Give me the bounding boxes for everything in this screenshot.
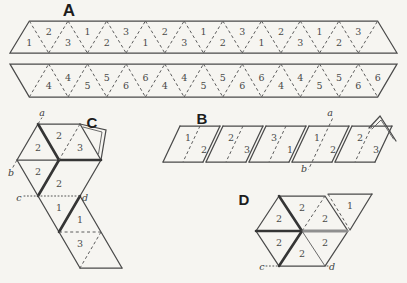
strip2-triangle-number: 5 (104, 72, 110, 83)
panel-c-triangle-number: 2 (35, 166, 41, 177)
panel-b-triangle-number: 2 (228, 132, 234, 143)
panel-c-fold-line (80, 232, 101, 268)
strip2-triangle-number: 6 (142, 72, 148, 83)
panel-d-triangle-number: 2 (276, 213, 282, 224)
strip1-triangle-number: 1 (26, 37, 32, 48)
fold-point-label-a-panel-b: a (327, 108, 333, 118)
strip1-triangle-number: 2 (162, 26, 168, 37)
strip2-triangle-number: 4 (162, 80, 168, 91)
panel-d-title: D (239, 191, 250, 208)
strip2-triangle-number: 4 (297, 72, 303, 83)
fold-point-label-c-panel-c: c (16, 193, 21, 203)
strip2-triangle-number: 4 (278, 80, 284, 91)
flexagon-figure-page: 1231231231231231234455664455664455661223… (0, 0, 407, 283)
fold-point-label-d-panel-d: d (329, 262, 335, 272)
strip2-triangle-number: 5 (336, 72, 342, 83)
panel-c-triangle-number: 1 (77, 214, 83, 225)
strip2-triangle-number: 4 (46, 80, 52, 91)
strip1-triangle-number: 3 (297, 37, 303, 48)
strip2-triangle-number: 5 (200, 80, 206, 91)
strip1-triangle-number: 1 (317, 26, 323, 37)
strip2-triangle-number: 6 (355, 80, 361, 91)
panel-a-title: A (63, 1, 75, 21)
panel-c-flap-inner-edge (83, 127, 102, 154)
panel-b-triangle-number: 1 (185, 132, 191, 143)
panel-b-segment-left-edge (249, 126, 266, 162)
strip1-triangle-number: 2 (46, 26, 52, 37)
panel-b-triangle-number: 3 (373, 144, 379, 155)
strip1-triangle-number: 3 (239, 26, 245, 37)
strip2-triangle-number: 4 (65, 72, 71, 83)
panel-c-label-a-pointer (38, 118, 42, 125)
strip2-triangle-number: 5 (220, 72, 226, 83)
strip1-triangle-number: 3 (181, 37, 187, 48)
strip2-triangle-number: 5 (84, 80, 90, 91)
strip1-triangle-number: 1 (200, 26, 206, 37)
strip1-triangle-number: 2 (220, 37, 226, 48)
panel-c-triangle-number: 2 (35, 142, 41, 153)
panel-d-flap-number: 1 (347, 200, 353, 211)
panel-c-triangle-number: 3 (77, 142, 83, 153)
panel-d-flap-right-edge (350, 194, 372, 230)
panel-c-right-notch-edge (80, 160, 101, 196)
panel-b-triangle-number: 2 (201, 144, 207, 155)
panel-d-triangle-number: 2 (299, 248, 305, 259)
strip2-triangle-number: 4 (181, 72, 187, 83)
strip1-triangle-number: 3 (355, 26, 361, 37)
fold-point-label-b-panel-b: b (301, 164, 307, 174)
panel-d-triangle-number: 2 (276, 237, 282, 248)
panel-b-segment-left-edge (206, 126, 223, 162)
panel-c-title: C (87, 114, 98, 131)
strip1-triangle-number: 2 (278, 26, 284, 37)
panel-b-triangle-number: 1 (314, 132, 320, 143)
panel-c-triangle-number: 2 (56, 178, 62, 189)
strip2-triangle-number: 6 (123, 80, 129, 91)
strip1-triangle-number: 2 (336, 37, 342, 48)
panel-c-triangle-number: 3 (77, 238, 83, 249)
panel-d-triangle-number: 2 (322, 213, 328, 224)
strip1-triangle-number: 2 (104, 37, 110, 48)
strip1-triangle-number: 3 (123, 26, 129, 37)
panel-b-segment-left-edge (163, 126, 180, 162)
panel-c-triangle-number: 2 (56, 130, 62, 141)
panel-b-triangle-number: 3 (244, 144, 250, 155)
flexagon-net-diagram: 1231231231231231234455664455664455661223… (0, 0, 407, 283)
fold-point-label-d-panel-c: d (82, 193, 88, 203)
fold-point-label-a-panel-c: a (39, 108, 45, 118)
strip2-triangle-number: 6 (239, 80, 245, 91)
strip2-triangle-number: 6 (375, 72, 381, 83)
strip1-triangle-number: 1 (259, 37, 265, 48)
panel-d-triangle-number: 2 (299, 202, 305, 213)
strip2-triangle-number: 5 (317, 80, 323, 91)
fold-point-label-b-panel-c: b (8, 168, 14, 178)
panel-b-triangle-number: 2 (357, 132, 363, 143)
panel-d-triangle-number: 2 (322, 237, 328, 248)
panel-c-triangle-number: 1 (56, 202, 62, 213)
strip1-triangle-number: 1 (84, 26, 90, 37)
panel-b-triangle-number: 1 (287, 144, 293, 155)
strip1-triangle-number: 3 (65, 37, 71, 48)
panel-b-triangle-number: 3 (271, 132, 277, 143)
panel-b-segment-left-edge (292, 126, 309, 162)
fold-point-label-c-panel-d: c (259, 262, 264, 272)
strip1-triangle-number: 1 (142, 37, 148, 48)
panel-b-segment-left-edge (335, 126, 352, 162)
panel-b-triangle-number: 2 (330, 144, 336, 155)
strip2-triangle-number: 6 (259, 72, 265, 83)
panel-b-title: B (197, 110, 208, 127)
